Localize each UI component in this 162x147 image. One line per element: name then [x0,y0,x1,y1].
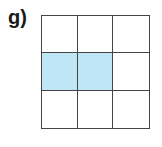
grid-cell-r2-c3 [113,53,149,90]
grid-cell-r1-c3 [113,16,149,53]
fraction-grid [41,15,150,129]
grid-cell-r2-c2-shaded [78,53,114,90]
grid-cell-r2-c1-shaded [42,53,78,90]
grid-cell-r1-c2 [78,16,114,53]
grid-cell-r3-c3 [113,91,149,128]
problem-label: g) [8,6,27,28]
grid-cell-r1-c1 [42,16,78,53]
grid-cell-r3-c2 [78,91,114,128]
grid-cell-r3-c1 [42,91,78,128]
